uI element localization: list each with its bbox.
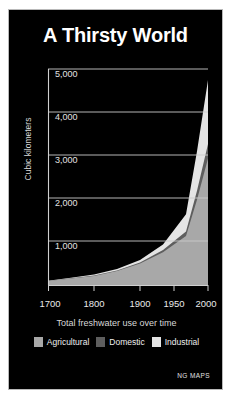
- x-tick-label-1800: 1800: [83, 298, 104, 309]
- y-tick-label-5000: 5,000: [55, 69, 78, 79]
- legend-label-industrial: Industrial: [165, 337, 200, 347]
- source-credit: NG MAPS: [177, 372, 210, 379]
- legend-swatch-industrial: [152, 337, 161, 347]
- legend-label-domestic: Domestic: [109, 337, 144, 347]
- legend-item-agricultural: Agricultural: [34, 337, 90, 347]
- x-tick-label-1700: 1700: [39, 298, 60, 309]
- chart-legend: Agricultural Domestic Industrial: [9, 337, 224, 347]
- y-tick-label-3000: 3,000: [55, 155, 78, 165]
- y-tick-label-2000: 2,000: [55, 198, 78, 208]
- y-tick-label-4000: 4,000: [55, 112, 78, 122]
- legend-label-agricultural: Agricultural: [47, 337, 90, 347]
- x-tick-label-1950: 1950: [163, 298, 184, 309]
- x-tick-label-2000: 2000: [195, 298, 216, 309]
- y-axis-label: Cubic kilometers: [23, 99, 33, 199]
- stacked-areas: [48, 80, 208, 285]
- legend-swatch-agricultural: [34, 337, 43, 347]
- x-axis-label: Total freshwater use over time: [9, 318, 224, 328]
- y-tick-label-1000: 1,000: [55, 241, 78, 251]
- chart-svg: [9, 10, 224, 391]
- legend-item-industrial: Industrial: [152, 337, 200, 347]
- plot-area: Cubic kilometers 5,000 4,000 3,000 2,000…: [9, 10, 224, 391]
- chart-panel: A Thirsty World Cubic kilometers 5,000 4…: [8, 9, 223, 390]
- legend-swatch-domestic: [96, 337, 105, 347]
- legend-item-domestic: Domestic: [96, 337, 144, 347]
- chart-figure: A Thirsty World Cubic kilometers 5,000 4…: [0, 0, 235, 413]
- x-tick-label-1900: 1900: [129, 298, 150, 309]
